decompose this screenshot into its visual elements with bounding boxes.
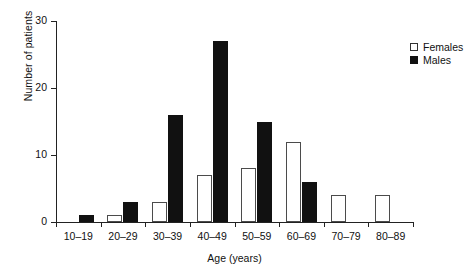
x-axis-label: Age (years) (56, 252, 413, 264)
y-tick-label-20: 20 (35, 81, 47, 93)
x-tick-label-50–59: 50–59 (242, 230, 271, 242)
bar-females-20–29 (107, 215, 122, 222)
x-tick-5 (279, 222, 280, 227)
y-axis-line (56, 21, 57, 222)
x-tick-label-40–49: 40–49 (198, 230, 227, 242)
chart-figure: Number of patients 0102030 10–1920–2930–… (0, 0, 469, 273)
x-tick-label-60–69: 60–69 (287, 230, 316, 242)
bar-males-10–19 (79, 215, 94, 222)
x-tick-label-80–89: 80–89 (376, 230, 405, 242)
legend: Females Males (410, 40, 463, 66)
bar-males-60–69 (302, 182, 317, 222)
legend-item-females: Females (410, 40, 463, 53)
x-tick-2 (145, 222, 146, 227)
y-tick-30: 30 (51, 21, 56, 22)
bar-males-40–49 (213, 41, 228, 222)
bar-females-30–39 (152, 202, 167, 222)
y-tick-label-10: 10 (35, 148, 47, 160)
bar-males-50–59 (257, 122, 272, 223)
bar-males-20–29 (123, 202, 138, 222)
x-tick-1 (101, 222, 102, 227)
bar-females-50–59 (241, 168, 256, 222)
x-tick-8 (413, 222, 414, 227)
legend-swatch-females-icon (410, 43, 418, 51)
legend-item-males: Males (410, 53, 463, 66)
x-tick-7 (368, 222, 369, 227)
y-tick-label-0: 0 (41, 215, 47, 227)
y-tick-10: 10 (51, 155, 56, 156)
bar-males-30–39 (168, 115, 183, 222)
x-tick-label-70–79: 70–79 (331, 230, 360, 242)
y-axis-label: Number of patients (22, 0, 34, 136)
plot-area: 0102030 10–1920–2930–3940–4950–5960–6970… (56, 21, 413, 222)
x-tick-0 (56, 222, 57, 227)
x-tick-label-30–39: 30–39 (153, 230, 182, 242)
y-tick-20: 20 (51, 88, 56, 89)
x-tick-label-10–19: 10–19 (64, 230, 93, 242)
x-tick-label-20–29: 20–29 (108, 230, 137, 242)
bar-females-80–89 (375, 195, 390, 222)
x-tick-3 (190, 222, 191, 227)
x-tick-4 (235, 222, 236, 227)
bar-females-70–79 (331, 195, 346, 222)
bar-females-60–69 (286, 142, 301, 222)
legend-label-females: Females (423, 41, 463, 53)
legend-swatch-males-icon (410, 56, 418, 64)
y-tick-label-30: 30 (35, 14, 47, 26)
bar-females-40–49 (197, 175, 212, 222)
x-tick-6 (324, 222, 325, 227)
legend-label-males: Males (423, 54, 451, 66)
